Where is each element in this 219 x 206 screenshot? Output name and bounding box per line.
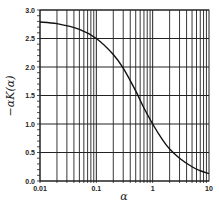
x-tick-label: 0.1 [91, 185, 101, 192]
x-tick-label: 10 [205, 185, 213, 192]
x-axis-label: α [120, 190, 128, 203]
y-axis-label: −αK(α) [4, 76, 17, 117]
grid-lines [40, 10, 209, 181]
y-tick-labels: 0.00.51.01.52.02.53.0 [25, 7, 35, 185]
y-tick-label: 2.5 [25, 35, 35, 42]
y-tick-label: 0.0 [25, 178, 35, 185]
y-minor-ticks [37, 10, 206, 183]
y-tick-label: 0.5 [25, 149, 35, 156]
y-tick-label: 1.0 [25, 121, 35, 128]
data-curve [40, 22, 209, 174]
y-tick-label: 2.0 [25, 64, 35, 71]
y-tick-label: 1.5 [25, 92, 35, 99]
y-tick-label: 3.0 [25, 7, 35, 14]
x-tick-label: 1 [151, 185, 155, 192]
x-tick-label: 0.01 [33, 185, 47, 192]
chart: 0.00.51.01.52.02.53.0 0.010.1110 α −αK(α… [0, 0, 219, 206]
